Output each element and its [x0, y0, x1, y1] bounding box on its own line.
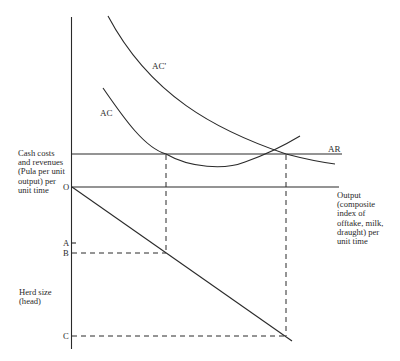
ac-label: AC	[100, 108, 113, 118]
point-b-label: B	[63, 248, 69, 258]
lower-y-axis-label: Herd size (head)	[19, 288, 52, 306]
point-c-label: C	[63, 331, 69, 341]
point-a-label: A	[63, 238, 69, 248]
ac-prime-label: AC'	[152, 61, 166, 71]
origin-label: O	[63, 182, 69, 192]
x-axis-label: Output (composite index of offtake, milk…	[337, 191, 383, 246]
ac-curve	[103, 88, 300, 167]
ac-prime-curve	[108, 16, 335, 164]
herd-size-line	[72, 187, 292, 341]
ar-label: AR	[328, 144, 341, 154]
upper-y-axis-label: Cash costs and revenues (Pula per unit o…	[18, 149, 65, 195]
